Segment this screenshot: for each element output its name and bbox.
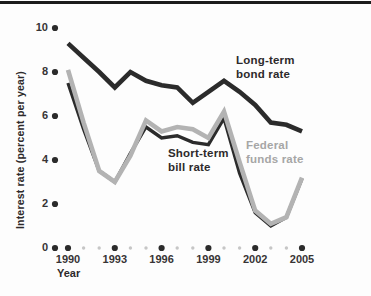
long-term-bond-rate-label-line1: Long-term: [236, 54, 295, 68]
x-tick-dot-minor: [129, 246, 132, 249]
x-tick-dot-minor: [238, 246, 241, 249]
x-tick-dot-minor: [176, 246, 179, 249]
x-tick-label: 1990: [56, 253, 80, 265]
short-term-bill-rate-label-line2: bill rate: [168, 161, 229, 175]
y-tick-label: 4: [42, 153, 48, 165]
x-tick-dot-minor: [222, 246, 225, 249]
y-tick-dot: [52, 157, 58, 163]
y-axis-title: Interest rate (percent per year): [14, 71, 26, 229]
x-tick-dot-minor: [98, 246, 101, 249]
y-tick-dot: [52, 113, 58, 119]
long-term-bond-rate-label-line2: bond rate: [236, 68, 295, 82]
x-tick-dot-major: [299, 245, 305, 251]
y-tick-label: 10: [36, 21, 48, 33]
x-tick-dot-major: [205, 245, 211, 251]
x-tick-label: 1999: [196, 253, 220, 265]
federal-funds-rate-label-line2: funds rate: [246, 153, 304, 167]
y-tick-dot: [52, 25, 58, 31]
x-tick-dot-minor: [191, 246, 194, 249]
y-tick-label: 6: [42, 109, 48, 121]
x-tick-label: 2005: [290, 253, 314, 265]
x-tick-label: 2002: [243, 253, 267, 265]
short-term-bill-rate-label: Short-term bill rate: [168, 147, 229, 174]
x-tick-dot-major: [159, 245, 165, 251]
y-tick-label: 0: [42, 241, 48, 253]
x-axis-title: Year: [57, 267, 80, 279]
y-tick-dot: [52, 245, 58, 251]
x-tick-label: 1993: [103, 253, 127, 265]
x-tick-label: 1996: [149, 253, 173, 265]
x-tick-dot-minor: [269, 246, 272, 249]
interest-rate-chart: Interest rate (percent per year) 0246810…: [0, 0, 371, 296]
x-tick-dot-major: [112, 245, 118, 251]
y-tick-label: 8: [42, 65, 48, 77]
federal-funds-rate-label-line1: Federal: [246, 139, 304, 153]
x-tick-dot-minor: [82, 246, 85, 249]
x-tick-dot-major: [252, 245, 258, 251]
x-tick-dot-minor: [144, 246, 147, 249]
y-tick-dot: [52, 201, 58, 207]
federal-funds-rate-label: Federal funds rate: [246, 139, 304, 166]
y-tick-label: 2: [42, 197, 48, 209]
x-tick-dot-major: [65, 245, 71, 251]
y-tick-dot: [52, 69, 58, 75]
long-term-bond-rate-label: Long-term bond rate: [236, 54, 295, 81]
x-tick-dot-minor: [285, 246, 288, 249]
short-term-bill-rate-label-line1: Short-term: [168, 147, 229, 161]
